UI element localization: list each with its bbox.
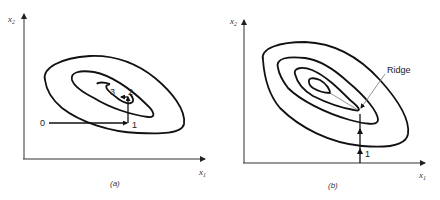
contour-4-b bbox=[309, 78, 330, 93]
x-axis-label-a: x1 bbox=[198, 167, 206, 178]
ridge-leader-line bbox=[361, 74, 385, 108]
ridge-label: Ridge bbox=[387, 65, 411, 75]
point-3-label: 3 bbox=[110, 87, 115, 97]
diagram-canvas: x2 x1 0 1 2 3 (a) x2 x1 Ridge bbox=[0, 0, 440, 200]
caption-a: (a) bbox=[110, 179, 120, 188]
point-0-label: 0 bbox=[40, 118, 45, 128]
contour-2-b bbox=[278, 57, 378, 123]
contour-3-b bbox=[295, 68, 359, 111]
caption-b: (b) bbox=[328, 181, 338, 190]
y-axis-label-a: x2 bbox=[7, 14, 15, 25]
x-axis-label-b: x1 bbox=[418, 170, 426, 181]
step-1-label-b: 1 bbox=[365, 149, 370, 159]
panel-b: x2 x1 Ridge 1 (b) bbox=[229, 16, 426, 190]
point-2-label: 2 bbox=[128, 87, 133, 97]
arrow-b-2 bbox=[357, 128, 363, 134]
y-axis-label-b: x2 bbox=[229, 16, 237, 27]
arrow-b-1 bbox=[357, 148, 363, 154]
point-1-label: 1 bbox=[132, 120, 137, 130]
panel-a: x2 x1 0 1 2 3 (a) bbox=[7, 14, 206, 188]
